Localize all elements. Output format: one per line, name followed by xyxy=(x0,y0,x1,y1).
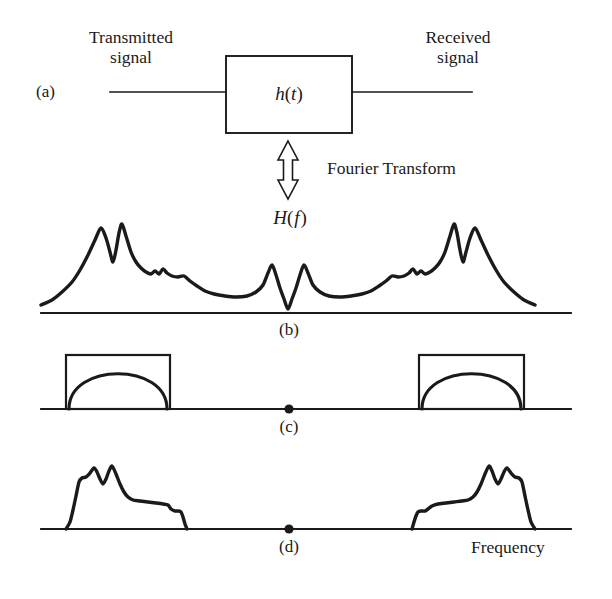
transfer-function-label: H(f) xyxy=(273,207,307,228)
impulse-response-h: h xyxy=(275,83,285,104)
impulse-response-label: h(t) xyxy=(275,83,302,104)
panel-b-tag: (b) xyxy=(279,320,299,339)
impulse-response-paren-close: ) xyxy=(296,83,302,104)
panel-c-passbands xyxy=(41,355,571,414)
transmitted-signal-line2: signal xyxy=(89,48,173,68)
channel-response-figure xyxy=(0,0,612,599)
passband-arc-right xyxy=(422,374,521,409)
frequency-response-curve xyxy=(41,224,535,309)
received-signal-label: Received signal xyxy=(425,28,490,67)
transmitted-signal-line1: Transmitted xyxy=(89,28,173,48)
received-spectrum-right xyxy=(412,466,535,529)
passband-rect-left xyxy=(66,355,170,409)
panel-a-tag: (a) xyxy=(36,82,55,101)
panel-c-origin-dot xyxy=(284,404,293,413)
transfer-function-H: H xyxy=(273,207,287,228)
panel-d-received-spectrum xyxy=(41,466,571,534)
panel-d-tag: (d) xyxy=(279,537,299,556)
panel-c-tag: (c) xyxy=(280,417,299,436)
passband-rect-right xyxy=(419,355,524,409)
transfer-function-paren-close: ) xyxy=(301,207,307,228)
frequency-axis-label: Frequency xyxy=(471,538,545,558)
panel-d-origin-dot xyxy=(284,524,293,533)
received-signal-line2: signal xyxy=(425,48,490,68)
passband-arc-left xyxy=(69,374,167,409)
panel-b-frequency-response xyxy=(41,224,571,313)
fourier-transform-label: Fourier Transform xyxy=(327,159,456,179)
received-signal-line1: Received xyxy=(425,28,490,48)
received-spectrum-left xyxy=(66,466,187,529)
transmitted-signal-label: Transmitted signal xyxy=(89,28,173,67)
fourier-transform-arrow xyxy=(278,141,298,199)
